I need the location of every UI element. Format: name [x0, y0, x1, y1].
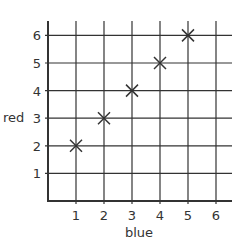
- plot-area: 123456123456: [0, 0, 246, 245]
- x-tick-label: 2: [100, 208, 108, 223]
- x-tick-label: 3: [128, 208, 136, 223]
- y-tick-label: 6: [33, 28, 41, 43]
- y-tick-label: 2: [33, 139, 41, 154]
- y-tick-label: 1: [33, 166, 41, 181]
- y-tick-label: 5: [33, 56, 41, 71]
- y-tick-label: 3: [33, 111, 41, 126]
- x-axis-label: blue: [125, 226, 153, 239]
- x-tick-label: 1: [72, 208, 80, 223]
- y-axis-label: red: [3, 111, 24, 124]
- y-tick-label: 4: [33, 84, 41, 99]
- x-tick-label: 6: [212, 208, 220, 223]
- x-tick-label: 5: [184, 208, 192, 223]
- x-tick-label: 4: [156, 208, 164, 223]
